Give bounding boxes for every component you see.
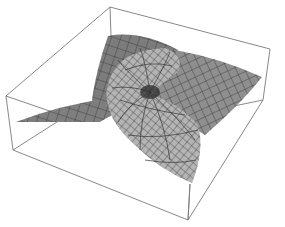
bounding-box-front — [188, 184, 190, 220]
surface-plot — [0, 0, 285, 227]
